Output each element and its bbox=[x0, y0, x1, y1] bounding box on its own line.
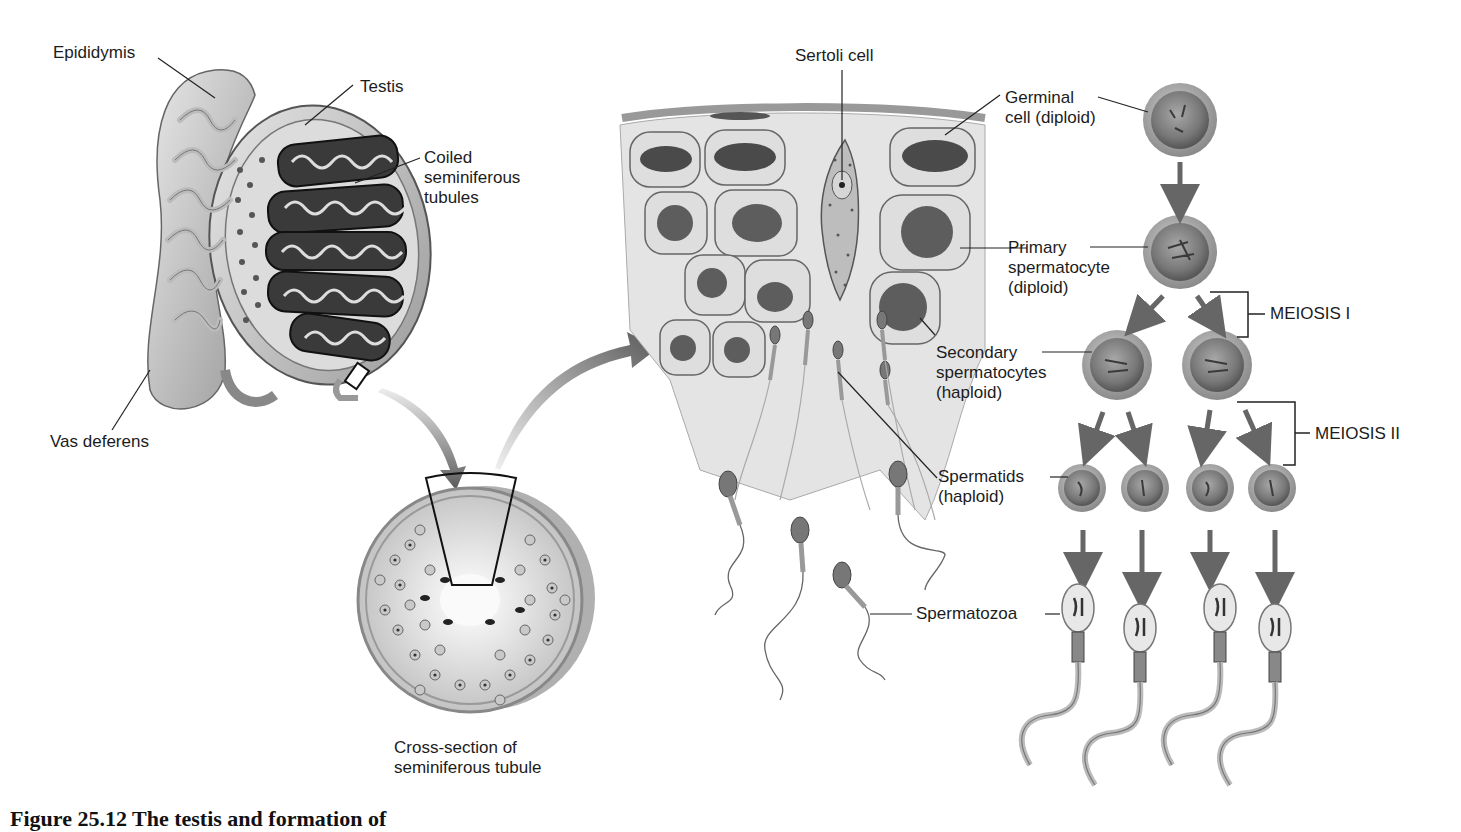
label-cross-section: Cross-section of seminiferous tubule bbox=[394, 738, 541, 778]
meiosis-tree bbox=[1042, 83, 1310, 614]
cross-section-illustration bbox=[358, 473, 595, 712]
label-testis: Testis bbox=[360, 77, 403, 97]
label-germinal-cell: Germinal cell (diploid) bbox=[1005, 88, 1096, 128]
label-meiosis-1: MEIOSIS I bbox=[1270, 304, 1350, 324]
mature-spermatozoa bbox=[1022, 584, 1291, 785]
label-meiosis-2: MEIOSIS II bbox=[1315, 424, 1400, 444]
label-primary-spermatocyte: Primary spermatocyte (diploid) bbox=[1008, 238, 1110, 298]
label-vas-deferens: Vas deferens bbox=[50, 432, 149, 452]
seminiferous-epithelium-illustration bbox=[620, 107, 985, 520]
label-coiled-seminiferous-tubules: Coiled seminiferous tubules bbox=[424, 148, 520, 208]
label-secondary-spermatocytes: Secondary spermatocytes (haploid) bbox=[936, 343, 1047, 403]
figure-caption: Figure 25.12 The testis and formation of bbox=[10, 806, 386, 832]
label-sertoli-cell: Sertoli cell bbox=[795, 46, 873, 66]
label-spermatids: Spermatids (haploid) bbox=[938, 467, 1024, 507]
label-epididymis: Epididymis bbox=[53, 43, 135, 63]
testis-illustration bbox=[148, 70, 449, 409]
curved-arrow-to-tissue bbox=[495, 332, 658, 470]
label-spermatozoa: Spermatozoa bbox=[916, 604, 1017, 624]
